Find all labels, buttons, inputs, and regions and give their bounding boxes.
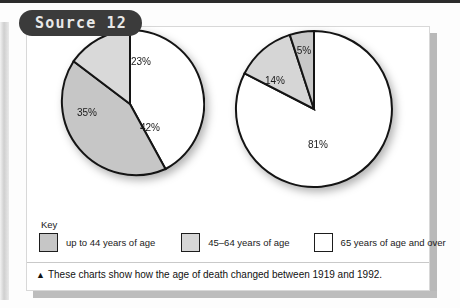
key-entry-65-and-over: 65 years of age and over [314,233,446,252]
charts-container: 23% 35% 42% 5% 14% 81% [27,27,429,213]
pie-1992-label-65-and-over: 81% [308,139,328,150]
caption-divider [27,262,429,263]
caption-triangle-icon: ▲ [36,270,45,280]
key-label-up-to-44: up to 44 years of age [66,237,155,248]
pie-1992-slices [236,31,392,187]
pie-1919-label-up-to-44: 35% [77,107,97,118]
key-row: up to 44 years of age 45–64 years of age… [39,233,429,252]
key-label-65-and-over: 65 years of age and over [341,237,446,248]
page-top-rule [0,0,460,3]
pie-chart-1992: 5% 14% 81% [234,27,394,189]
key-swatch-65-and-over [314,233,333,252]
pie-1919-slices [62,30,204,175]
pie-chart-1992-svg: 5% 14% 81% [234,27,394,189]
key-label-45-64: 45–64 years of age [208,237,289,248]
key-entry-45-64: 45–64 years of age [181,233,289,252]
panel-shadow-right [430,33,437,297]
key-swatch-up-to-44 [39,233,58,252]
pie-chart-1919-svg: 23% 35% 42% [55,27,205,179]
key-title: Key [41,219,429,230]
key-entry-up-to-44: up to 44 years of age [39,233,155,252]
caption-text: These charts show how the age of death c… [48,269,382,280]
pie-chart-1919: 23% 35% 42% [55,27,205,179]
source-badge: Source 12 [19,10,142,36]
panel-shadow-bottom [33,291,437,298]
key-swatch-45-64 [181,233,200,252]
figure-page: Source 12 23% 35% 42% [0,0,460,308]
page-left-margin-strip [0,22,9,300]
pie-1919-label-45-64: 23% [131,56,151,67]
figure-caption: ▲These charts show how the age of death … [36,268,436,282]
pie-1919-label-65-and-over: 42% [140,122,160,133]
pie-1992-label-45-64: 14% [265,75,285,86]
pie-1992-label-up-to-44: 5% [297,45,312,56]
chart-key: Key up to 44 years of age 45–64 years of… [39,219,429,252]
